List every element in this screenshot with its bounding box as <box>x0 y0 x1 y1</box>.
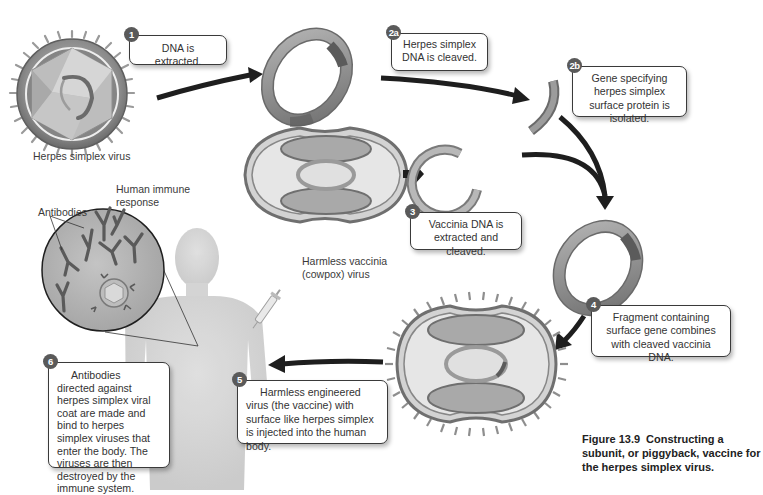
step-3-callout: 2b 3 Vaccinia DNA is extracted and cleav… <box>410 212 522 250</box>
step-5-badge: 5 <box>232 372 247 387</box>
arrow-step-4 <box>565 316 584 340</box>
antibodies-label: Antibodies <box>38 206 87 219</box>
vaccinia-virus-illustration <box>245 128 407 222</box>
step-5-callout: 5 Harmless engineered virus (the vaccine… <box>237 380 388 444</box>
vaccinia-label-line-2: (cowpox) virus <box>302 268 387 281</box>
step-1-text: DNA is extracted. <box>138 42 218 69</box>
figure-caption: Figure 13.9Constructing a subunit, or pi… <box>582 432 762 474</box>
step-2a-text: Herpes simplex DNA is cleaved. <box>400 38 479 65</box>
arrow-step-5 <box>282 361 383 364</box>
step-6-badge: 6 <box>43 354 58 369</box>
step-3-badge: 3 <box>405 204 420 219</box>
immune-label-line-2: response <box>116 196 190 209</box>
engineered-vaccine-virus <box>385 292 568 436</box>
arrow-step-2a <box>381 78 518 96</box>
immune-response-label: Human immune response <box>116 183 190 209</box>
step-6-callout: 6 Antibodies directed against herpes sim… <box>48 362 170 468</box>
step-5-text: Harmless engineered virus (the vaccine) … <box>246 386 379 453</box>
step-4-badge: 4 <box>586 297 601 312</box>
step-1-badge: 1 <box>124 27 139 42</box>
vaccinia-virus-label: Harmless vaccinia (cowpox) virus <box>302 255 387 281</box>
herpes-simplex-virus-illustration <box>10 31 134 156</box>
step-2a-callout: 2a Herpes simplex DNA is cleaved. <box>391 33 488 71</box>
step-3-text: Vaccinia DNA is extracted and cleaved. <box>419 218 513 258</box>
vaccinia-label-line-1: Harmless vaccinia <box>302 255 387 268</box>
herpes-dna-ring <box>251 19 363 136</box>
figure-number: Figure 13.9 <box>582 433 640 445</box>
herpes-simplex-virus-label: Herpes simplex virus <box>33 150 130 163</box>
step-4-callout: 4 Fragment containing surface gene combi… <box>591 305 731 357</box>
immune-label-line-1: Human immune <box>116 183 190 196</box>
step-6-text: Antibodies directed against herpes simpl… <box>57 369 161 495</box>
step-2b-callout: 2b Gene specifying herpes simplex surfac… <box>572 66 687 117</box>
step-2b-badge: 2b <box>567 58 582 73</box>
step-4-text: Fragment containing surface gene combine… <box>600 311 722 365</box>
step-2a-badge: 2a <box>386 25 401 40</box>
arrow-step-1 <box>157 75 250 98</box>
step-2b-text: Gene specifying herpes simplex surface p… <box>581 72 678 126</box>
step-1-callout: 1 DNA is extracted. <box>129 35 227 65</box>
